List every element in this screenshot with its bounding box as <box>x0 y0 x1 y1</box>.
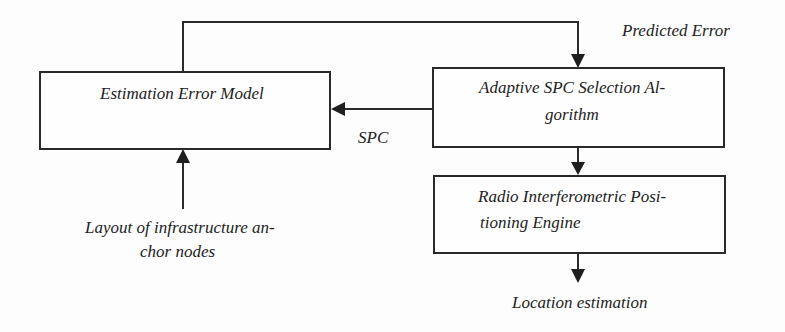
spc-label: SPC <box>358 127 388 149</box>
arrowhead-left-icon <box>331 102 345 116</box>
radio-interferometric-engine-label-line1: Radio Interferometric Posi- <box>478 186 666 208</box>
predicted-error-connector <box>183 22 578 72</box>
predicted-error-label: Predicted Error <box>622 20 730 42</box>
estimation-error-model-label: Estimation Error Model <box>100 83 264 105</box>
flowchart-diagram: Estimation Error Model Adaptive SPC Sele… <box>0 0 785 332</box>
location-output-label: Location estimation <box>512 292 648 314</box>
arrowhead-up-icon <box>176 149 190 163</box>
adaptive-spc-selection-label-line1: Adaptive SPC Selection Al- <box>479 77 665 99</box>
connectors <box>0 0 785 332</box>
arrowhead-down-icon <box>571 54 585 68</box>
radio-interferometric-engine-label-line2: tioning Engine <box>480 212 581 234</box>
layout-input-label-line2: chor nodes <box>140 241 215 263</box>
arrowhead-down-icon <box>571 269 585 283</box>
arrowhead-down-icon <box>571 162 585 175</box>
layout-input-label-line1: Layout of infrastructure an- <box>85 217 275 239</box>
adaptive-spc-selection-label-line2: gorithm <box>545 104 599 126</box>
